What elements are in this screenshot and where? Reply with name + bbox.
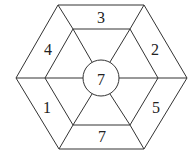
label-lower-right: 5 (152, 99, 160, 116)
label-top: 3 (97, 9, 105, 26)
label-upper-left: 4 (44, 41, 52, 58)
label-lower-left: 1 (43, 99, 51, 116)
label-bottom: 7 (98, 128, 106, 145)
label-upper-right: 2 (151, 41, 159, 58)
center-label: 7 (97, 71, 105, 88)
hexagon-diagram: 7 3 2 5 7 1 4 (0, 0, 191, 156)
